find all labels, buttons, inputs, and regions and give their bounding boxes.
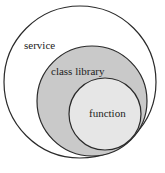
class-library-label: class library — [51, 65, 105, 77]
function-label: function — [89, 107, 126, 119]
nested-circle-diagram: service class library function — [0, 0, 165, 173]
service-label: service — [24, 39, 55, 51]
